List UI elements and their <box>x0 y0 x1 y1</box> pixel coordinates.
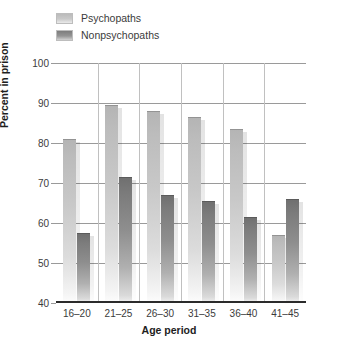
bar-fill <box>244 217 257 303</box>
category-separator <box>264 63 265 303</box>
bar-top-edge <box>161 195 174 196</box>
bar-fill <box>272 235 285 303</box>
y-tick-mark-60 <box>51 223 56 224</box>
bar-top-edge <box>77 233 90 234</box>
x-tick-label-41–45: 41–45 <box>264 308 306 319</box>
bar-nonpsychopaths-21–25 <box>119 177 132 303</box>
nonpsychopaths-swatch-icon <box>56 30 73 41</box>
bar-nonpsychopaths-16–20 <box>77 233 90 303</box>
bar-psychopaths-21–25 <box>105 105 118 303</box>
legend-label-psychopaths: Psychopaths <box>81 13 141 24</box>
bar-psychopaths-31–35 <box>188 117 201 303</box>
bar-nonpsychopaths-41–45 <box>286 199 299 303</box>
y-axis-title: Percent in prison <box>0 8 10 128</box>
psychopaths-swatch-icon <box>56 13 73 24</box>
bar-shadow <box>132 180 136 306</box>
bar-psychopaths-26–30 <box>147 111 160 303</box>
x-tick-label-16–20: 16–20 <box>56 308 98 319</box>
bar-shadow <box>174 198 178 306</box>
bar-shadow <box>299 202 303 306</box>
bar-top-edge <box>202 201 215 202</box>
y-tick-mark-80 <box>51 143 56 144</box>
bar-top-edge <box>244 217 257 218</box>
bar-nonpsychopaths-31–35 <box>202 201 215 303</box>
bar-fill <box>105 105 118 303</box>
y-tick-mark-90 <box>51 103 56 104</box>
bar-fill <box>161 195 174 303</box>
x-tick-label-26–30: 26–30 <box>139 308 181 319</box>
legend-item-psychopaths: Psychopaths <box>56 10 256 27</box>
bar-psychopaths-36–40 <box>230 129 243 303</box>
bar-top-edge <box>119 177 132 178</box>
category-separator <box>139 63 140 303</box>
chart-plot-area: 405060708090100 <box>56 63 306 303</box>
y-tick-label-90: 90 <box>38 98 49 109</box>
y-tick-label-100: 100 <box>32 58 49 69</box>
bar-shadow <box>215 204 219 306</box>
bar-fill <box>147 111 160 303</box>
x-tick-label-31–35: 31–35 <box>181 308 223 319</box>
y-tick-label-50: 50 <box>38 258 49 269</box>
bar-fill <box>77 233 90 303</box>
legend-item-nonpsychopaths: Nonpsychopaths <box>56 27 256 44</box>
y-tick-label-80: 80 <box>38 138 49 149</box>
bar-top-edge <box>63 139 76 140</box>
bar-fill <box>230 129 243 303</box>
y-tick-label-70: 70 <box>38 178 49 189</box>
bar-fill <box>63 139 76 303</box>
bar-psychopaths-16–20 <box>63 139 76 303</box>
bar-nonpsychopaths-36–40 <box>244 217 257 303</box>
chart-legend: Psychopaths Nonpsychopaths <box>56 10 256 44</box>
y-tick-mark-100 <box>51 63 56 64</box>
y-tick-label-60: 60 <box>38 218 49 229</box>
bar-psychopaths-41–45 <box>272 235 285 303</box>
y-tick-mark-40 <box>51 303 56 304</box>
bar-fill <box>286 199 299 303</box>
category-separator <box>223 63 224 303</box>
x-axis-title: Age period <box>0 324 338 336</box>
category-separator <box>98 63 99 303</box>
bar-shadow <box>90 236 94 306</box>
bar-shadow <box>257 220 261 306</box>
y-tick-mark-50 <box>51 263 56 264</box>
bar-top-edge <box>105 105 118 106</box>
y-tick-mark-70 <box>51 183 56 184</box>
bar-top-edge <box>286 199 299 200</box>
bar-fill <box>202 201 215 303</box>
x-tick-label-21–25: 21–25 <box>98 308 140 319</box>
x-tick-label-36–40: 36–40 <box>223 308 265 319</box>
legend-label-nonpsychopaths: Nonpsychopaths <box>81 30 159 41</box>
bar-top-edge <box>272 235 285 236</box>
bar-top-edge <box>147 111 160 112</box>
x-axis-line <box>56 301 306 303</box>
bar-top-edge <box>188 117 201 118</box>
y-tick-label-40: 40 <box>38 298 49 309</box>
bar-top-edge <box>230 129 243 130</box>
bar-fill <box>188 117 201 303</box>
bar-nonpsychopaths-26–30 <box>161 195 174 303</box>
bar-fill <box>119 177 132 303</box>
category-separator <box>181 63 182 303</box>
